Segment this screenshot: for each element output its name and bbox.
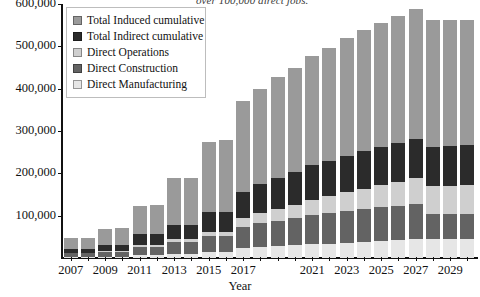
bar-segment	[426, 20, 440, 147]
x-tick-mark	[122, 257, 123, 261]
bar-segment	[409, 139, 423, 179]
legend-item-label: Total Induced cumulative	[87, 14, 204, 27]
bar-column	[460, 20, 474, 258]
x-tick-mark	[209, 257, 210, 261]
legend-item-label: Direct Operations	[87, 46, 169, 59]
x-tick-mark	[191, 257, 192, 261]
bar-segment	[271, 209, 285, 221]
bar-segment	[64, 238, 78, 249]
x-tick-mark	[364, 257, 365, 261]
bar-column	[271, 77, 285, 258]
bar-segment	[460, 239, 474, 258]
y-tick-label: 100,000	[15, 208, 56, 223]
x-tick-mark	[226, 257, 227, 261]
bar-segment	[253, 223, 267, 247]
bar-segment	[340, 243, 354, 258]
bar-segment	[443, 214, 457, 239]
bar-column	[236, 101, 250, 258]
bar-segment	[305, 244, 319, 258]
bar-segment	[443, 239, 457, 258]
x-tick-label: 2025	[369, 263, 394, 278]
bar-segment	[167, 242, 181, 254]
bar-segment	[81, 238, 95, 249]
bar-column	[322, 48, 336, 258]
x-tick-label: 2027	[403, 263, 428, 278]
bar-segment	[167, 225, 181, 239]
bar-segment	[340, 156, 354, 192]
x-tick-mark	[174, 257, 175, 261]
bar-segment	[219, 140, 233, 212]
bar-segment	[340, 38, 354, 156]
x-tick-mark	[329, 257, 330, 261]
legend-item: Total Induced cumulative	[73, 12, 199, 28]
bar-segment	[305, 200, 319, 215]
bar-segment	[133, 206, 147, 234]
bar-segment	[357, 151, 371, 188]
x-tick-mark	[105, 257, 106, 261]
bar-segment	[271, 221, 285, 246]
x-tick-mark	[140, 257, 141, 261]
bar-segment	[460, 145, 474, 185]
x-tick-label: 2021	[300, 263, 325, 278]
x-tick-mark	[295, 257, 296, 261]
bar-column	[98, 229, 112, 258]
bar-segment	[253, 213, 267, 223]
bar-column	[81, 238, 95, 258]
bar-segment	[150, 247, 164, 255]
bar-segment	[236, 227, 250, 248]
bar-segment	[253, 184, 267, 214]
bar-segment	[340, 211, 354, 243]
bar-segment	[288, 68, 302, 172]
x-tick-mark	[278, 257, 279, 261]
bar-column	[219, 140, 233, 258]
bar-column	[184, 178, 198, 258]
bar-column	[391, 16, 405, 258]
bar-segment	[219, 212, 233, 231]
bar-segment	[305, 165, 319, 200]
x-tick-mark	[312, 257, 313, 261]
bar-segment	[391, 182, 405, 206]
x-tick-label: 2007	[58, 263, 83, 278]
bar-segment	[357, 209, 371, 242]
legend-swatch-icon	[73, 32, 82, 41]
bar-column	[133, 206, 147, 258]
x-tick-label: 2017	[231, 263, 256, 278]
bar-segment	[374, 147, 388, 185]
bar-column	[64, 238, 78, 258]
bar-segment	[426, 214, 440, 239]
x-axis-ticks: 2007200920112013201520172021202320252027…	[62, 261, 476, 281]
bar-segment	[460, 20, 474, 145]
bar-segment	[167, 178, 181, 225]
bar-segment	[271, 77, 285, 178]
legend-item: Direct Manufacturing	[73, 76, 199, 92]
bar-segment	[322, 161, 336, 197]
legend-item-label: Total Indirect cumulative	[87, 30, 203, 43]
bar-segment	[374, 23, 388, 147]
bar-segment	[322, 48, 336, 161]
legend-swatch-icon	[73, 16, 82, 25]
legend-swatch-icon	[73, 48, 82, 57]
bar-column	[443, 20, 457, 258]
bar-segment	[219, 236, 233, 252]
bar-segment	[426, 147, 440, 187]
x-tick-label: 2009	[93, 263, 118, 278]
x-tick-mark	[347, 257, 348, 261]
legend-swatch-icon	[73, 64, 82, 73]
bar-segment	[443, 146, 457, 186]
bar-segment	[271, 178, 285, 209]
bar-column	[305, 56, 319, 258]
x-tick-label: 2029	[438, 263, 463, 278]
bar-segment	[374, 207, 388, 241]
y-tick-label: 600,000	[15, 0, 56, 11]
bar-segment	[150, 234, 164, 245]
legend-swatch-icon	[73, 80, 82, 89]
x-tick-mark	[260, 257, 261, 261]
bar-segment	[236, 218, 250, 226]
bar-segment	[357, 30, 371, 151]
bar-segment	[374, 185, 388, 207]
bar-segment	[133, 247, 147, 255]
bar-segment	[426, 239, 440, 258]
x-tick-mark	[71, 257, 72, 261]
bar-segment	[305, 215, 319, 245]
legend-item: Direct Construction	[73, 60, 199, 76]
